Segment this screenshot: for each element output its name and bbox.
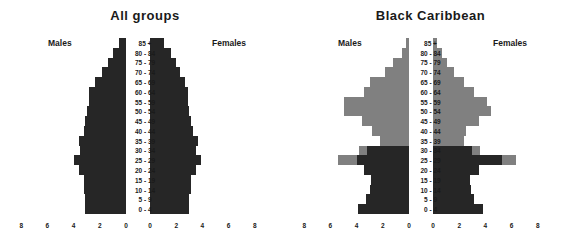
pyramid-row: 25 - 29 xyxy=(290,155,571,165)
bar-left-dark xyxy=(371,175,409,185)
age-label-column xyxy=(409,77,433,87)
x-axis-tick: 8 xyxy=(302,222,306,229)
bar-left-dark xyxy=(357,155,409,165)
bar-right-dark xyxy=(150,97,188,107)
bar-left-dark xyxy=(79,165,126,175)
x-axis-tick: 6 xyxy=(46,222,50,229)
bar-left-dark xyxy=(370,185,409,195)
x-axis-tick: 2 xyxy=(381,222,385,229)
bar-right-dark xyxy=(433,194,474,204)
age-label-column xyxy=(126,48,150,58)
age-label-column xyxy=(409,204,433,214)
bar-rows-black-caribbean: 85 +80 - 8475 - 7970 - 7465 - 6960 - 645… xyxy=(290,38,571,214)
x-axis-tick: 2 xyxy=(174,222,178,229)
pyramid-row: 50 - 54 xyxy=(0,106,290,116)
age-label-column xyxy=(126,155,150,165)
bar-right-dark xyxy=(150,38,164,48)
age-label-column xyxy=(409,97,433,107)
bar-right-gray xyxy=(433,48,442,58)
bar-right-dark xyxy=(433,146,472,156)
pyramid-row: 30 - 34 xyxy=(0,146,290,156)
bar-left-dark xyxy=(74,155,126,165)
pyramid-row: 25 - 29 xyxy=(0,155,290,165)
age-label-column xyxy=(126,116,150,126)
pyramid-row: 70 - 74 xyxy=(0,67,290,77)
bar-right-gray xyxy=(433,77,464,87)
age-label-column xyxy=(409,116,433,126)
bar-right-dark xyxy=(150,77,185,87)
bar-left-gray xyxy=(344,106,410,116)
bar-right-gray xyxy=(433,106,491,116)
x-axis-tick: 8 xyxy=(536,222,540,229)
bar-left-dark xyxy=(85,116,126,126)
pyramid-row: 20 - 24 xyxy=(0,165,290,175)
x-axis-tick: 6 xyxy=(329,222,333,229)
age-label-column xyxy=(409,38,433,48)
age-label-column xyxy=(409,155,433,165)
bar-right-dark xyxy=(150,126,193,136)
bar-left-gray xyxy=(372,126,409,136)
bar-right-dark xyxy=(433,175,470,185)
x-axis-black-caribbean: 8642002468 xyxy=(290,222,571,236)
x-axis-tick: 8 xyxy=(253,222,257,229)
bar-left-gray xyxy=(380,136,409,146)
age-label-column xyxy=(126,38,150,48)
age-label-column xyxy=(126,87,150,97)
bar-left-dark xyxy=(84,185,126,195)
bar-left-gray xyxy=(402,48,409,58)
bar-right-gray xyxy=(433,67,454,77)
bar-left-dark xyxy=(358,204,409,214)
age-label-column xyxy=(409,194,433,204)
bar-left-dark xyxy=(364,165,409,175)
bar-left-dark xyxy=(108,58,126,68)
bar-left-dark xyxy=(95,77,126,87)
plot-area-all-groups: 85 +80 - 8475 - 7970 - 7465 - 6960 - 645… xyxy=(0,38,290,214)
bar-left-gray xyxy=(370,77,409,87)
bar-left-dark xyxy=(102,67,126,77)
age-label-column xyxy=(126,165,150,175)
bar-left-dark xyxy=(85,194,126,204)
x-axis-tick: 0 xyxy=(124,222,128,229)
bar-right-dark xyxy=(150,136,198,146)
x-axis-all-groups: 8642002468 xyxy=(0,222,290,236)
bar-left-gray xyxy=(385,67,409,77)
age-label-column xyxy=(126,77,150,87)
bar-left-dark xyxy=(367,146,409,156)
bar-left-gray xyxy=(362,116,409,126)
bar-right-dark xyxy=(150,48,171,58)
age-label-column xyxy=(409,106,433,116)
pyramid-row: 10 - 14 xyxy=(290,185,571,195)
x-axis-tick: 0 xyxy=(407,222,411,229)
age-label-column xyxy=(409,58,433,68)
bar-right-dark xyxy=(150,155,201,165)
chart-panel-black-caribbean: Black Caribbean Males Females 85 +80 - 8… xyxy=(290,0,571,249)
bar-left-dark xyxy=(89,97,126,107)
pyramid-row: 45 - 49 xyxy=(290,116,571,126)
bar-right-gray xyxy=(433,116,479,126)
bar-left-gray xyxy=(393,58,409,68)
bar-left-dark xyxy=(79,136,126,146)
pyramid-row: 5 - 9 xyxy=(290,194,571,204)
age-label-column xyxy=(126,185,150,195)
pyramid-row: 35 - 39 xyxy=(290,136,571,146)
bar-right-gray xyxy=(433,126,466,136)
bar-right-gray xyxy=(433,136,464,146)
bar-right-gray xyxy=(433,58,447,68)
bar-right-dark xyxy=(150,175,191,185)
age-label-column xyxy=(126,58,150,68)
x-axis-tick: 4 xyxy=(355,222,359,229)
age-label-column xyxy=(126,106,150,116)
bar-left-gray xyxy=(364,87,409,97)
bar-right-gray xyxy=(433,38,437,48)
pyramid-row: 0 - 4 xyxy=(0,204,290,214)
pyramid-row: 40 - 44 xyxy=(290,126,571,136)
x-axis-tick: 6 xyxy=(227,222,231,229)
age-label-column xyxy=(126,146,150,156)
bar-right-dark xyxy=(150,67,180,77)
x-axis-tick: 4 xyxy=(72,222,76,229)
pyramid-row: 35 - 39 xyxy=(0,136,290,146)
age-label-column xyxy=(409,146,433,156)
pyramid-row: 80 - 84 xyxy=(0,48,290,58)
age-label-column xyxy=(126,67,150,77)
chart-panel-all-groups: All groups Males Females 85 +80 - 8475 -… xyxy=(0,0,290,249)
